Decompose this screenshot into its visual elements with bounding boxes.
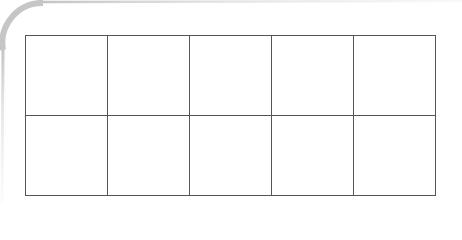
grid-cell — [190, 116, 272, 196]
grid-cell — [26, 36, 108, 116]
grid-table — [25, 35, 436, 196]
grid-row — [26, 116, 436, 196]
grid-cell — [272, 36, 354, 116]
grid-row — [26, 36, 436, 116]
grid-cell — [354, 116, 436, 196]
grid-cell — [108, 36, 190, 116]
grid-cell — [354, 36, 436, 116]
grid-cell — [108, 116, 190, 196]
grid-cell — [272, 116, 354, 196]
grid-cell — [26, 116, 108, 196]
grid-cell — [190, 36, 272, 116]
